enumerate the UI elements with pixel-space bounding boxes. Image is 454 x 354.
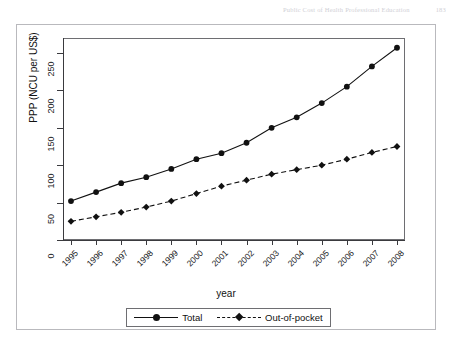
legend-key-dashed-diamond-icon <box>217 313 261 323</box>
x-tick-1999 <box>171 240 172 245</box>
x-tick-1995 <box>71 240 72 245</box>
legend-entry-total: Total <box>134 312 202 323</box>
legend-entry-out-of-pocket: Out-of-pocket <box>217 312 323 323</box>
y-tick-0 <box>57 240 63 241</box>
x-axis-line <box>63 240 405 241</box>
x-tick-1996 <box>96 240 97 245</box>
x-tick-label-1996: 1996 <box>77 248 105 276</box>
x-tick-label-1999: 1999 <box>152 248 180 276</box>
x-tick-2000 <box>196 240 197 245</box>
y-axis-title: PPP (NCU per US$) <box>28 3 39 153</box>
x-tick-2003 <box>272 240 273 245</box>
x-tick-2005 <box>322 240 323 245</box>
y-tick-label-250: 250 <box>46 52 56 86</box>
x-tick-1997 <box>121 240 122 245</box>
x-tick-2006 <box>347 240 348 245</box>
y-axis-line <box>63 38 64 240</box>
x-tick-2001 <box>221 240 222 245</box>
x-tick-1998 <box>146 240 147 245</box>
x-tick-label-1998: 1998 <box>127 248 155 276</box>
legend-label-out-of-pocket: Out-of-pocket <box>265 312 323 323</box>
y-tick-50 <box>57 203 63 204</box>
page-header-number: 183 <box>436 6 446 12</box>
x-tick-label-2008: 2008 <box>378 248 406 276</box>
y-tick-200 <box>57 90 63 91</box>
x-tick-label-2004: 2004 <box>277 248 305 276</box>
x-tick-2008 <box>397 240 398 245</box>
y-tick-label-150: 150 <box>46 127 56 161</box>
x-tick-label-1997: 1997 <box>102 248 130 276</box>
x-tick-label-2007: 2007 <box>353 248 381 276</box>
page-header-title: Public Cost of Health Professional Educa… <box>283 6 410 12</box>
x-tick-2002 <box>247 240 248 245</box>
chart-legend: Total Out-of-pocket <box>126 308 331 327</box>
legend-label-total: Total <box>182 312 202 323</box>
x-tick-label-2003: 2003 <box>252 248 280 276</box>
y-tick-100 <box>57 165 63 166</box>
x-tick-label-2006: 2006 <box>328 248 356 276</box>
figure-page: Public Cost of Health Professional Educa… <box>0 0 454 354</box>
x-tick-label-2001: 2001 <box>202 248 230 276</box>
y-tick-label-100: 100 <box>46 164 56 198</box>
y-tick-250 <box>57 53 63 54</box>
x-tick-label-2002: 2002 <box>227 248 255 276</box>
x-axis-title: year <box>16 288 436 299</box>
y-tick-label-50: 50 <box>46 202 56 236</box>
scanned-page-header: Public Cost of Health Professional Educa… <box>0 0 454 12</box>
x-tick-label-1995: 1995 <box>52 248 80 276</box>
y-tick-150 <box>57 128 63 129</box>
plot-frame <box>63 38 405 240</box>
x-tick-2007 <box>372 240 373 245</box>
legend-key-solid-circle-icon <box>134 313 178 323</box>
x-tick-label-2000: 2000 <box>177 248 205 276</box>
x-tick-label-2005: 2005 <box>303 248 331 276</box>
y-tick-label-200: 200 <box>46 89 56 123</box>
chart: PPP (NCU per US$) year 050100150200250 1… <box>16 24 436 330</box>
x-tick-2004 <box>297 240 298 245</box>
